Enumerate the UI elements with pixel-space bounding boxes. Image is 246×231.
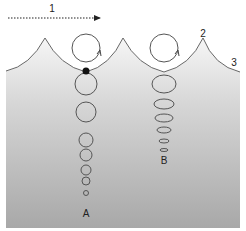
label-b: B bbox=[161, 155, 168, 166]
label-2: 2 bbox=[200, 28, 206, 39]
label-3: 3 bbox=[231, 57, 237, 68]
surface-orbit-a bbox=[72, 34, 100, 62]
label-1: 1 bbox=[49, 3, 55, 14]
surface-orbit-b bbox=[150, 34, 178, 62]
label-a: A bbox=[83, 208, 90, 219]
water-particle-dot bbox=[83, 68, 90, 75]
wave-orbital-diagram: 1 2 3 A B bbox=[0, 0, 246, 231]
water-body bbox=[6, 38, 240, 228]
